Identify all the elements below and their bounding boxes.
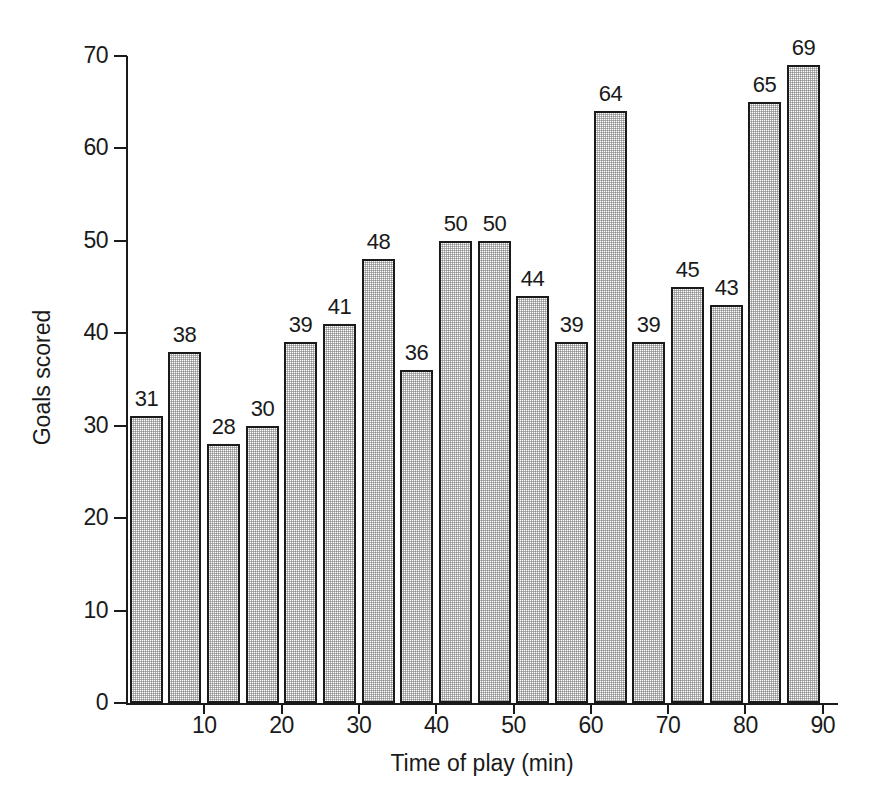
bar [632, 342, 665, 703]
bar-value-label: 38 [148, 324, 221, 346]
bar [787, 65, 820, 703]
bar-chart: 010203040506070 102030405060708090 31382… [0, 0, 876, 796]
bar-value-label: 48 [342, 231, 415, 253]
bar-value-label: 50 [458, 213, 531, 235]
bar [362, 259, 395, 703]
bar [323, 324, 356, 703]
bar-value-label: 44 [496, 268, 569, 290]
bar [555, 342, 588, 703]
bar [478, 241, 511, 703]
bar [516, 296, 549, 703]
y-axis-title: Goals scored [31, 258, 54, 498]
bars-layer: 313828303941483650504439643945436569 [0, 0, 876, 796]
bar [671, 287, 704, 703]
bar [748, 102, 781, 703]
bar [130, 416, 163, 703]
bar [207, 444, 240, 703]
bar [710, 305, 743, 703]
bar-value-label: 69 [767, 37, 840, 59]
bar [594, 111, 627, 703]
bar [439, 241, 472, 703]
x-axis-title: Time of play (min) [126, 752, 838, 775]
bar [284, 342, 317, 703]
bar [246, 426, 279, 703]
bar [400, 370, 433, 703]
bar [168, 352, 201, 703]
bar-value-label: 64 [574, 83, 647, 105]
